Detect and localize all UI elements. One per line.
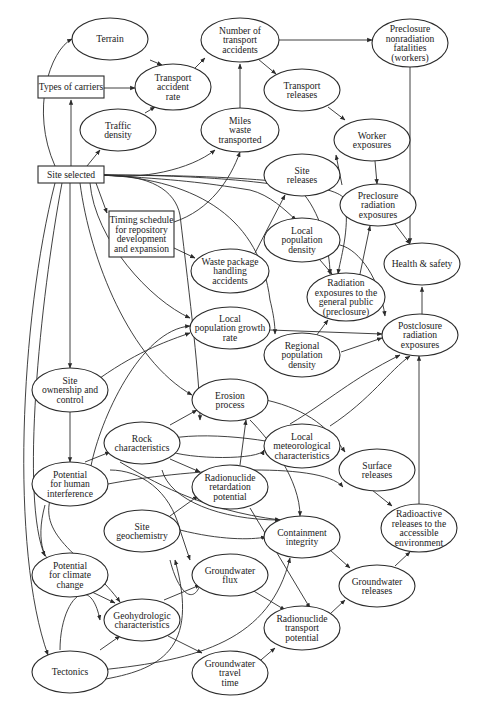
node-potential-human-interference: Potentialfor humaninterference (32, 462, 108, 506)
node-radiation-general-public: Radiationexposures to thegeneral public(… (307, 273, 385, 321)
node-label: exposures (359, 209, 398, 220)
node-label: interference (47, 488, 93, 499)
edge-arrow (100, 333, 190, 378)
node-regional-population-density: Regionalpopulationdensity (264, 333, 340, 377)
node-label: process (216, 399, 245, 410)
node-groundwater-releases: Groundwaterreleases (339, 565, 415, 607)
node-rock-characteristics: Rockcharacteristics (104, 422, 180, 464)
edge-arrow (372, 490, 392, 506)
node-site-selected: Site selected (38, 166, 104, 183)
node-label: density (288, 244, 316, 255)
node-label: environment (395, 537, 444, 548)
node-transport-releases: Transportreleases (264, 69, 340, 111)
node-waste-package-handling: Waste packagehandlingaccidents (191, 249, 269, 293)
node-terrain: Terrain (72, 18, 148, 60)
node-surface-releases: Surfacereleases (339, 449, 415, 491)
node-label: change (56, 579, 83, 590)
nodes-layer: TerrainNumber oftransportaccidentsPreclo… (32, 18, 460, 695)
node-label: Site selected (47, 169, 95, 180)
node-label: accidents (212, 275, 248, 286)
node-erosion-process: Erosionprocess (192, 379, 268, 421)
node-radioactive-releases: Radioactivereleases to theaccessibleenvi… (381, 504, 457, 552)
node-label: Types of carriers (39, 81, 104, 92)
node-geohydrologic: Geohydrologiccharacteristics (104, 599, 180, 641)
node-label: Tectonics (52, 666, 89, 677)
node-label: characteristics (115, 442, 170, 453)
node-health-safety: Health & safety (384, 243, 460, 285)
edge-arrow (104, 150, 215, 176)
edge-arrow (180, 530, 266, 539)
node-label: potential (213, 491, 247, 502)
node-radionuclide-retardation: Radionuclideretardationpotential (192, 465, 268, 509)
edge-arrow (145, 107, 155, 113)
node-types-of-carriers: Types of carriers (38, 76, 104, 98)
node-preclosure-radiation: Preclosureradiationexposures (340, 184, 416, 226)
edge-arrow (92, 592, 115, 603)
node-label: (preclosure) (323, 306, 369, 318)
node-label: (workers) (391, 52, 428, 64)
node-label: exposures (401, 339, 440, 350)
node-num-transport-accidents: Number oftransportaccidents (201, 18, 279, 62)
edge-arrow (328, 107, 345, 120)
edge-arrow (252, 590, 285, 610)
node-label: exposures (353, 139, 392, 150)
edge-arrow (270, 330, 382, 334)
node-label: rate (223, 332, 237, 343)
node-traffic-density: Trafficdensity (80, 109, 156, 151)
edge-arrow (100, 636, 120, 650)
edge-arrow (87, 150, 100, 166)
node-label: density (288, 359, 316, 370)
edge-arrow (170, 459, 200, 472)
node-label: releases (287, 89, 318, 100)
node-label: transported (218, 134, 261, 145)
node-label: geochemistry (116, 530, 168, 541)
edge-arrow (170, 410, 197, 425)
node-label: potential (285, 632, 319, 643)
node-label: rate (166, 91, 180, 102)
node-potential-climate-change: Potentialfor climatechange (32, 553, 108, 597)
node-label: Terrain (96, 33, 124, 44)
edge-arrow (43, 39, 72, 166)
node-groundwater-flux: Groundwaterflux (192, 554, 268, 596)
node-containment-integrity: Containmentintegrity (264, 516, 340, 558)
node-site-ownership: Siteownership andcontrol (32, 368, 108, 412)
node-label: and expansion (114, 243, 169, 254)
edge-arrow (195, 58, 205, 68)
node-local-population-density: Localpopulationdensity (264, 218, 340, 262)
edge-arrow (165, 450, 264, 458)
edge-arrow (85, 452, 110, 462)
node-label: releases (287, 174, 318, 185)
node-local-meteorological: Localmeteorologicalcharacteristics (264, 424, 340, 468)
edge-arrow (360, 226, 370, 274)
edge-arrow (395, 552, 410, 566)
node-label: characteristics (275, 450, 330, 461)
node-label: releases (362, 585, 393, 596)
node-tectonics: Tectonics (32, 651, 108, 693)
node-label: density (104, 129, 132, 140)
node-label: releases (362, 469, 393, 480)
node-preclosure-nonradiation: Preclosurenonradiationfatalities(workers… (372, 19, 448, 67)
edge-arrow (375, 161, 377, 184)
node-timing-schedule: Timing schedulefor repositorydevelopment… (109, 211, 174, 257)
node-label: accidents (222, 44, 258, 55)
influence-diagram: TerrainNumber oftransportaccidentsPreclo… (0, 0, 478, 709)
edge-arrow (330, 550, 350, 568)
edge-arrow (395, 224, 410, 244)
node-label: integrity (286, 536, 319, 547)
node-worker-exposures: Workerexposures (334, 119, 410, 161)
edge-arrow (150, 60, 162, 65)
node-label: control (56, 394, 84, 405)
node-label: characteristics (115, 619, 170, 630)
node-label: flux (222, 574, 238, 585)
node-transport-accident-rate: Transportaccidentrate (135, 64, 211, 110)
edge-arrow (330, 600, 345, 614)
edge-arrow (60, 594, 100, 650)
edge-arrow (96, 183, 107, 213)
node-miles-waste-transported: Mileswastetransported (201, 108, 279, 152)
node-label: Health & safety (392, 258, 453, 269)
node-groundwater-travel-time: Groundwatertraveltime (192, 651, 268, 695)
node-postclosure-radiation: Postclosureradiationexposures (382, 314, 458, 356)
edge-arrow (170, 496, 198, 516)
node-site-geochemistry: Sitegeochemistry (104, 510, 180, 552)
node-site-releases: Sitereleases (264, 154, 340, 196)
